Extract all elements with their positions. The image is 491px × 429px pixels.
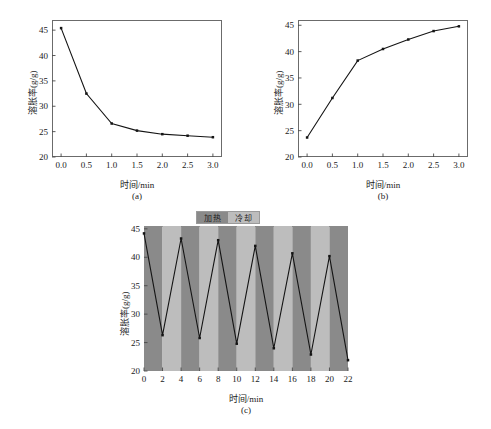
panel-c-ylabel: 溶胀率(g/g) (118, 292, 131, 337)
xtick-label: 0.0 (301, 160, 313, 170)
xtick-label: 14 (269, 374, 279, 384)
panel-c-xlabel: 时间/min (144, 392, 348, 405)
data-point (382, 48, 385, 51)
band-冷却 (163, 226, 182, 371)
data-point (60, 27, 63, 30)
panel-c: 加热 冷却 溶胀率(g/g) 0246810121416182022202530… (100, 206, 390, 429)
panel-a: 溶胀率(g/g) 0.00.51.01.52.02.53.02025303540… (0, 0, 245, 205)
ytick-label: 40 (39, 51, 49, 61)
band-冷却 (237, 226, 256, 371)
data-point (254, 245, 257, 248)
data-point (161, 133, 164, 136)
xtick-label: 0.0 (55, 160, 67, 170)
data-point (273, 347, 276, 350)
panel-c-caption: (c) (144, 405, 348, 415)
ytick-label: 40 (285, 47, 295, 57)
data-point (85, 92, 88, 95)
ytick-label: 45 (131, 224, 141, 234)
ytick-label: 35 (131, 281, 141, 291)
legend-heating: 加热 (197, 212, 228, 223)
xtick-label: 2.5 (182, 160, 194, 170)
series-line (307, 26, 459, 137)
xtick-label: 12 (251, 374, 260, 384)
data-point (186, 134, 189, 137)
data-point (347, 359, 350, 362)
ytick-label: 30 (131, 309, 141, 319)
panel-b-caption: (b) (298, 191, 468, 201)
ytick-label: 40 (131, 252, 141, 262)
legend-cooling-label: 冷却 (235, 212, 252, 223)
data-point (212, 136, 215, 139)
panel-b-svg: 0.00.51.01.52.02.53.0202530354045 (298, 20, 468, 157)
ytick-label: 20 (131, 366, 141, 376)
band-加热 (292, 226, 311, 371)
ytick-label: 45 (285, 20, 295, 30)
xtick-label: 20 (325, 374, 335, 384)
xtick-label: 2.5 (428, 160, 440, 170)
panel-a-xlabel: 时间/min (52, 178, 222, 191)
xtick-label: 0.5 (327, 160, 339, 170)
xtick-label: 16 (288, 374, 298, 384)
xtick-label: 1.0 (352, 160, 364, 170)
data-point (136, 129, 139, 132)
xtick-label: 2.0 (403, 160, 415, 170)
data-point (198, 337, 201, 340)
panel-a-svg: 0.00.51.01.52.02.53.0202530354045 (52, 20, 222, 157)
data-point (180, 237, 183, 240)
ytick-label: 25 (285, 126, 295, 136)
xtick-label: 8 (216, 374, 221, 384)
data-point (217, 239, 220, 242)
xtick-label: 0.5 (81, 160, 93, 170)
data-point (331, 97, 334, 100)
data-point (328, 255, 331, 258)
data-point (235, 342, 238, 345)
ytick-label: 45 (39, 25, 49, 35)
ytick-label: 20 (285, 152, 295, 162)
data-point (143, 232, 146, 235)
band-冷却 (200, 226, 219, 371)
series-line (61, 28, 213, 137)
ytick-label: 25 (131, 338, 141, 348)
xtick-label: 1.5 (377, 160, 389, 170)
xtick-label: 22 (344, 374, 353, 384)
xtick-label: 18 (306, 374, 316, 384)
panel-c-svg: 0246810121416182022202530354045 (144, 226, 348, 371)
data-point (356, 59, 359, 62)
xtick-label: 1.5 (131, 160, 143, 170)
ytick-label: 30 (285, 100, 295, 110)
ytick-label: 20 (39, 152, 49, 162)
ytick-label: 35 (285, 73, 295, 83)
legend-cooling: 冷却 (228, 212, 259, 223)
panel-a-plot: 0.00.51.01.52.02.53.0202530354045 (52, 20, 222, 157)
xtick-label: 2.0 (157, 160, 169, 170)
data-point (110, 122, 113, 125)
data-point (432, 30, 435, 33)
data-point (306, 136, 309, 139)
panel-a-caption: (a) (52, 191, 222, 201)
panel-b-ylabel: 溶胀率(g/g) (272, 71, 285, 116)
xtick-label: 6 (197, 374, 202, 384)
data-point (291, 252, 294, 255)
band-加热 (218, 226, 237, 371)
ytick-label: 35 (39, 76, 49, 86)
panel-c-legend: 加热 冷却 (196, 211, 260, 224)
legend-heating-label: 加热 (204, 212, 221, 223)
xtick-label: 2 (160, 374, 165, 384)
data-point (458, 25, 461, 28)
band-冷却 (311, 226, 330, 371)
ytick-label: 25 (39, 127, 49, 137)
xtick-label: 4 (179, 374, 184, 384)
xtick-label: 3.0 (207, 160, 219, 170)
panel-c-plot: 0246810121416182022202530354045 (144, 226, 348, 371)
panel-b-xlabel: 时间/min (298, 178, 468, 191)
band-加热 (181, 226, 200, 371)
xtick-label: 3.0 (453, 160, 465, 170)
data-point (161, 334, 164, 337)
panel-b-plot: 0.00.51.01.52.02.53.0202530354045 (298, 20, 468, 157)
data-point (310, 353, 313, 356)
panel-a-ylabel: 溶胀率(g/g) (26, 71, 39, 116)
xtick-label: 10 (232, 374, 242, 384)
band-加热 (329, 226, 348, 371)
ytick-label: 30 (39, 101, 49, 111)
xtick-label: 0 (142, 374, 147, 384)
